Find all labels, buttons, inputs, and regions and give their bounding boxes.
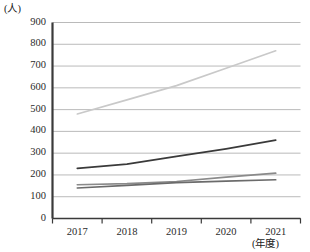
data-series-lines	[77, 51, 275, 188]
plot-area	[0, 0, 310, 252]
series-line-series-2	[77, 140, 275, 168]
line-chart: (人) (年度) 9008007006005004003002001000 20…	[0, 0, 310, 252]
axis-lines	[53, 23, 301, 219]
gridlines	[53, 23, 301, 219]
series-line-series-1	[77, 51, 275, 114]
